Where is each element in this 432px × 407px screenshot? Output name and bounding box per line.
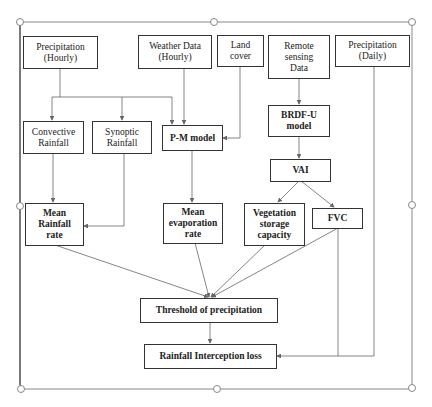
node-land-cover: Land cover	[217, 35, 264, 67]
node-remote-sensing-data: Remote sensing Data	[268, 35, 330, 79]
node-weather-data: Weather Data (Hourly)	[138, 35, 212, 69]
handle-top-middle	[211, 19, 218, 26]
handle-bottom-right	[409, 385, 416, 392]
handle-bottom-middle	[214, 386, 221, 393]
node-fvc: FVC	[312, 208, 363, 229]
node-pm-model: P-M model	[162, 125, 223, 151]
node-synoptic-rainfall: Synoptic Rainfall	[92, 121, 152, 154]
node-convective-rainfall: Convective Rainfall	[23, 121, 84, 154]
handle-middle-left	[17, 203, 24, 210]
node-threshold-of-precipitation: Threshold of precipitation	[140, 298, 278, 323]
diagram-canvas: Precipitation (Hourly) Weather Data (Hou…	[0, 0, 432, 407]
node-mean-evaporation-rate: Mean evaporation rate	[163, 203, 223, 244]
node-vegetation-storage-capacity: Vegetation storage capacity	[244, 203, 305, 246]
handle-top-right	[409, 19, 416, 26]
node-brdf-u-model: BRDF-U model	[268, 105, 330, 137]
handle-top-left	[17, 19, 24, 26]
handle-middle-right	[409, 202, 416, 209]
node-mean-rainfall-rate: Mean Rainfall rate	[25, 203, 84, 246]
node-rainfall-interception-loss: Rainfall Interception loss	[144, 344, 277, 369]
node-precipitation-hourly: Precipitation (Hourly)	[23, 36, 98, 69]
node-precipitation-daily: Precipitation (Daily)	[335, 35, 410, 67]
handle-bottom-left	[18, 386, 25, 393]
node-vai: VAI	[270, 159, 331, 182]
